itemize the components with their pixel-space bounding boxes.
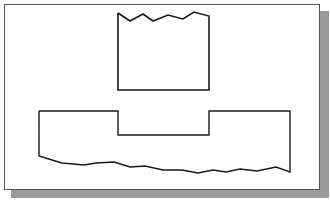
upper-block-outline <box>118 12 209 90</box>
drawing-canvas <box>0 0 330 202</box>
lower-slotted-block-outline <box>39 111 290 173</box>
